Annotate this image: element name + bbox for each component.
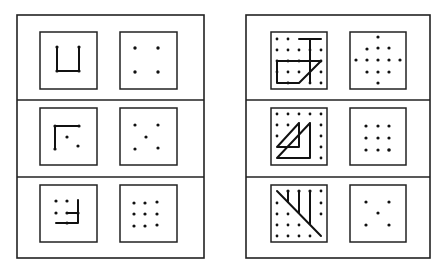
target-box bbox=[120, 108, 177, 165]
t-shape-and-trapezoid bbox=[277, 39, 321, 83]
dot-grid-3x3 bbox=[132, 200, 158, 227]
target-box bbox=[120, 185, 177, 242]
right-row-2 bbox=[271, 108, 406, 165]
left-row-2 bbox=[40, 108, 177, 165]
right-panel bbox=[246, 15, 430, 258]
dot-diamond bbox=[354, 35, 401, 84]
u-shape-pattern bbox=[55, 45, 80, 72]
l-corner-pattern bbox=[53, 124, 80, 150]
dot-quincunx bbox=[133, 123, 159, 150]
pattern-box bbox=[40, 32, 97, 89]
target-box bbox=[120, 32, 177, 89]
left-panel bbox=[17, 15, 204, 258]
hook-path-pattern bbox=[54, 199, 79, 224]
left-row-3 bbox=[40, 185, 177, 242]
puzzle-figure bbox=[0, 0, 445, 270]
right-row-1 bbox=[271, 32, 406, 89]
dot-square-2x2 bbox=[133, 46, 159, 73]
overlapping-triangles bbox=[277, 123, 310, 158]
dot-quincunx bbox=[364, 200, 390, 226]
left-row-1 bbox=[40, 32, 177, 89]
dot-grid-3x3 bbox=[364, 124, 390, 151]
right-panel-frame bbox=[246, 15, 430, 258]
left-panel-frame bbox=[17, 15, 204, 258]
diagonal-with-vertical-strokes bbox=[277, 189, 321, 236]
right-row-3 bbox=[271, 185, 406, 242]
